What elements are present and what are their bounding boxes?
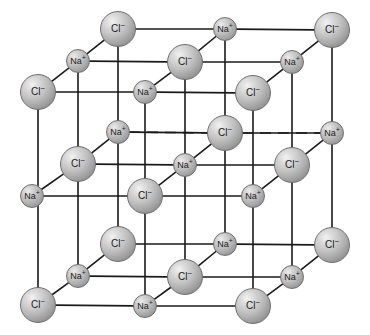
sodium-ion: Na+ [320, 121, 344, 145]
chloride-ion: Cl− [207, 115, 243, 151]
ion-label: Cl− [178, 272, 192, 282]
nacl-crystal-lattice-figure: Cl−Na+Cl−Na+Cl−Na+Cl−Na+Cl−Na+Cl−Na+Cl−N… [0, 0, 370, 335]
bond-line [87, 255, 105, 270]
sodium-ion: Na+ [133, 80, 157, 104]
bond-line [95, 164, 174, 165]
bond-line [267, 284, 284, 296]
chloride-ion: Cl− [167, 44, 203, 80]
ion-label: Cl− [178, 57, 192, 67]
bond-line [301, 41, 319, 56]
ion-label: Na+ [177, 161, 193, 170]
ion-label: Na+ [217, 240, 233, 249]
chloride-ion: Cl− [314, 227, 350, 263]
ion-label: Na+ [284, 58, 300, 67]
bond-line [55, 305, 134, 306]
bond-line [52, 282, 69, 295]
chloride-ion: Cl− [314, 12, 350, 48]
bond-line [194, 144, 212, 159]
sodium-ion: Na+ [66, 49, 90, 73]
bond-line [89, 276, 168, 277]
ion-label: Cl− [71, 159, 85, 169]
ion-label: Na+ [110, 128, 126, 137]
ion-label: Na+ [217, 25, 233, 34]
ion-label: Na+ [70, 272, 86, 281]
ion-label: Cl− [325, 25, 339, 35]
ion-label: Cl− [111, 239, 125, 249]
sodium-ion: Na+ [280, 50, 304, 74]
bond-line [154, 72, 172, 85]
bond-line [305, 140, 323, 155]
bond-line [262, 176, 279, 190]
ion-label: Na+ [137, 302, 153, 311]
ion-label: Cl− [31, 300, 45, 310]
ion-label: Cl− [138, 191, 152, 201]
bond-line [236, 29, 315, 30]
chloride-ion: Cl− [235, 288, 271, 324]
chloride-ion: Cl− [100, 226, 136, 262]
ion-label: Cl− [111, 24, 125, 34]
bond-line [266, 69, 283, 83]
bond-line [198, 36, 216, 51]
chloride-ion: Cl− [167, 259, 203, 295]
sodium-ion: Na+ [66, 264, 90, 288]
bond-line [236, 244, 315, 245]
sodium-ion: Na+ [133, 294, 157, 318]
chloride-ion: Cl− [20, 74, 56, 110]
bond-line [91, 139, 109, 154]
ion-label: Cl− [246, 88, 260, 98]
sodium-ion: Na+ [213, 17, 237, 41]
ion-label: Na+ [284, 273, 300, 282]
ion-label: Cl− [31, 87, 45, 97]
bond-line [89, 61, 168, 62]
ion-label: Na+ [324, 129, 340, 138]
sodium-ion: Na+ [213, 232, 237, 256]
ion-label: Cl− [246, 301, 260, 311]
chloride-ion: Cl− [100, 11, 136, 47]
ion-label: Cl− [285, 160, 299, 170]
chloride-ion: Cl− [20, 287, 56, 323]
bond-line [51, 68, 69, 82]
bond-line [87, 40, 105, 55]
ion-label: Cl− [325, 240, 339, 250]
ion-label: Cl− [218, 128, 232, 138]
sodium-ion: Na+ [280, 265, 304, 289]
bond-line [154, 287, 171, 300]
ion-label: Na+ [245, 192, 261, 201]
bond-line [198, 251, 216, 266]
ion-label: Na+ [24, 192, 40, 201]
ion-label: Na+ [70, 57, 86, 66]
bond-line [156, 92, 236, 93]
bond-line [41, 174, 64, 190]
chloride-ion: Cl− [127, 178, 163, 214]
sodium-ion: Na+ [241, 184, 265, 208]
sodium-ion: Na+ [173, 153, 197, 177]
sodium-ion: Na+ [106, 120, 130, 144]
ion-label: Na+ [137, 88, 153, 97]
chloride-ion: Cl− [60, 146, 96, 182]
bond-line [301, 256, 319, 271]
chloride-ion: Cl− [235, 75, 271, 111]
chloride-ion: Cl− [274, 147, 310, 183]
bond-line [158, 172, 176, 186]
sodium-ion: Na+ [20, 184, 44, 208]
